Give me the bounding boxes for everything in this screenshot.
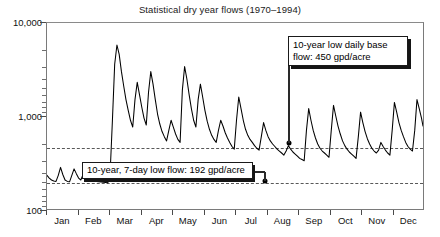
x-axis-label-nov: Nov <box>368 215 385 226</box>
x-tick-dec <box>393 210 394 215</box>
x-tick-sep <box>298 210 299 215</box>
x-tick-jun <box>204 210 205 215</box>
leader-line-lower <box>264 172 265 181</box>
y-axis-label-10000: 10,000 <box>13 17 42 28</box>
x-axis-label-apr: Apr <box>149 215 164 226</box>
chart-title: Statistical dry year flows (1970–1994) <box>0 4 440 15</box>
callout-upper-line1: 10-year low daily base <box>293 39 403 51</box>
x-tick-feb <box>78 210 79 215</box>
leader-elbow-lower <box>252 171 265 172</box>
x-axis-label-feb: Feb <box>85 215 101 226</box>
x-axis-label-aug: Aug <box>274 215 291 226</box>
x-tick-oct <box>330 210 331 215</box>
x-tick-nov <box>361 210 362 215</box>
callout-upper-450: 10-year low daily base flow: 450 gpd/acr… <box>288 36 408 66</box>
x-tick-may <box>172 210 173 215</box>
x-tick-aug <box>267 210 268 215</box>
x-axis-label-may: May <box>179 215 197 226</box>
x-axis-label-jan: Jan <box>54 215 69 226</box>
x-axis-label-jul: Jul <box>245 215 257 226</box>
chart-root: Statistical dry year flows (1970–1994) 1… <box>0 0 440 237</box>
callout-lower-192: 10-year, 7-day low flow: 192 gpd/acre <box>82 162 253 179</box>
x-axis-label-sep: Sep <box>305 215 322 226</box>
callout-lower-text: 10-year, 7-day low flow: 192 gpd/acre <box>87 164 248 176</box>
leader-line-upper <box>288 66 289 143</box>
x-tick-mar <box>109 210 110 215</box>
callout-upper-line2: flow: 450 gpd/acre <box>293 51 403 63</box>
x-tick-apr <box>141 210 142 215</box>
x-tick-jul <box>235 210 236 215</box>
y-axis-label-1000: 1,000 <box>18 111 42 122</box>
x-axis-label-oct: Oct <box>338 215 353 226</box>
x-axis-label-dec: Dec <box>400 215 417 226</box>
x-tick-jan <box>46 210 47 215</box>
x-axis-label-mar: Mar <box>117 215 133 226</box>
x-axis-label-jun: Jun <box>212 215 227 226</box>
